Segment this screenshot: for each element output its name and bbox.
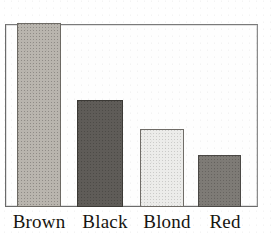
bars-layer (0, 0, 271, 236)
x-label-brown: Brown (2, 209, 76, 235)
bar-blond (140, 129, 184, 207)
x-label-blond: Blond (134, 209, 200, 235)
bar-brown (17, 23, 61, 207)
bar-brown-texture (18, 24, 60, 206)
bar-chart-figure: Brown Black Blond Red (0, 0, 271, 236)
x-axis-category-labels: Brown Black Blond Red (0, 209, 271, 236)
bar-red (198, 155, 241, 207)
bar-black-texture (78, 101, 122, 206)
bar-red-texture (199, 156, 240, 206)
x-label-black: Black (72, 209, 138, 235)
bar-black (77, 100, 123, 207)
x-label-red: Red (198, 209, 252, 235)
bar-blond-texture (141, 130, 183, 206)
